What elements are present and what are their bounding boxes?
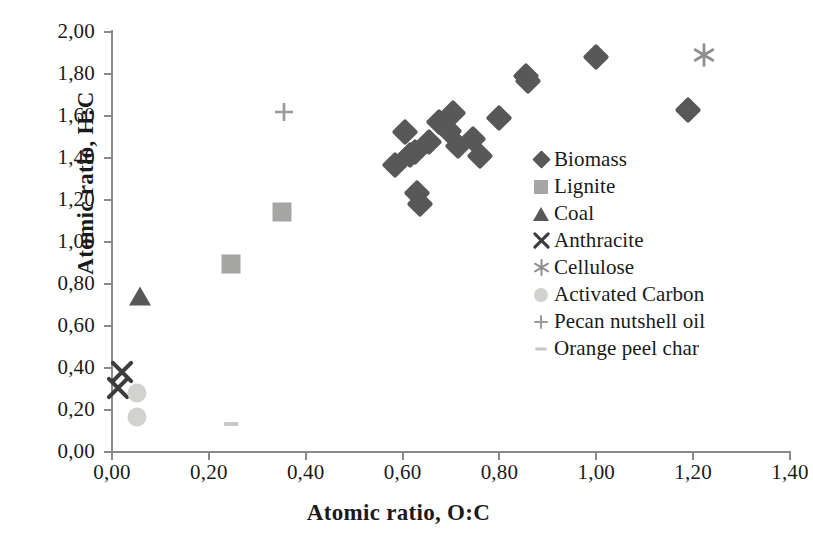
- x-axis-tick: [305, 452, 307, 460]
- y-axis-tick: [104, 199, 112, 201]
- asterisk-legend-icon: [528, 255, 554, 281]
- y-axis-tick: [104, 409, 112, 411]
- y-axis-tick: [104, 115, 112, 117]
- legend-item-label: Orange peel char: [554, 338, 699, 359]
- chart-legend: BiomassLigniteCoalAnthraciteCelluloseAct…: [528, 146, 778, 362]
- diamond-marker-icon: [583, 44, 610, 71]
- y-axis-tick: [104, 157, 112, 159]
- legend-item-orange-peel-char[interactable]: Orange peel char: [528, 335, 778, 362]
- data-point-orange-peel-char: [222, 420, 240, 428]
- x-axis-tick: [595, 452, 597, 460]
- dash-legend-icon: [528, 336, 554, 362]
- x-axis-tick-label: 0,80: [464, 462, 534, 483]
- x-axis-tick-label: 1,00: [561, 462, 631, 483]
- data-point-biomass: [688, 110, 707, 129]
- y-axis-tick: [104, 283, 112, 285]
- legend-item-biomass[interactable]: Biomass: [528, 146, 778, 173]
- legend-item-label: Anthracite: [554, 230, 644, 251]
- y-axis-tick: [104, 325, 112, 327]
- x-axis-title: Atomic ratio, O:C: [0, 500, 797, 526]
- legend-item-coal[interactable]: Coal: [528, 200, 778, 227]
- legend-item-activated-carbon[interactable]: Activated Carbon: [528, 281, 778, 308]
- y-axis-tick: [104, 241, 112, 243]
- square-marker-icon: [221, 255, 240, 274]
- y-axis-tick-label: 0,20: [33, 399, 95, 420]
- legend-item-label: Cellulose: [554, 257, 634, 278]
- y-axis-tick: [104, 31, 112, 33]
- circle-marker-icon: [128, 384, 147, 403]
- legend-item-anthracite[interactable]: Anthracite: [528, 227, 778, 254]
- legend-item-pecan-nutshell-oil[interactable]: Pecan nutshell oil: [528, 308, 778, 335]
- circle-legend-icon: [528, 282, 554, 308]
- plus-legend-icon: [528, 309, 554, 335]
- legend-item-cellulose[interactable]: Cellulose: [528, 254, 778, 281]
- legend-item-label: Pecan nutshell oil: [554, 311, 705, 332]
- x-axis-tick-label: 1,20: [658, 462, 728, 483]
- x-axis-tick-label: 0,00: [77, 462, 147, 483]
- triangle-legend-icon: [528, 201, 554, 227]
- x-axis-tick: [789, 452, 791, 460]
- triangle-marker-icon: [129, 286, 151, 305]
- legend-item-label: Lignite: [554, 176, 615, 197]
- legend-item-label: Activated Carbon: [554, 284, 704, 305]
- x-axis-tick: [402, 452, 404, 460]
- data-point-cellulose: [691, 42, 717, 68]
- x-legend-icon: [528, 228, 554, 254]
- x-axis-tick: [208, 452, 210, 460]
- y-axis-tick-label: 0,00: [33, 441, 95, 462]
- x-axis-tick-label: 1,40: [755, 462, 813, 483]
- x-axis-tick: [692, 452, 694, 460]
- square-legend-icon: [528, 174, 554, 200]
- data-point-activated-carbon: [137, 417, 156, 436]
- legend-item-label: Biomass: [554, 149, 627, 170]
- y-axis-title: Atomic ratio, H:C: [73, 83, 99, 283]
- square-marker-icon: [272, 202, 291, 221]
- data-point-lignite: [231, 264, 250, 283]
- y-axis-tick-label: 2,00: [33, 21, 95, 42]
- y-axis-tick: [104, 73, 112, 75]
- data-point-biomass: [420, 204, 439, 223]
- data-point-lignite: [282, 212, 301, 231]
- data-point-pecan-nutshell-oil: [272, 100, 296, 124]
- x-axis-tick: [498, 452, 500, 460]
- y-axis-tick-label: 0,40: [33, 357, 95, 378]
- circle-marker-icon: [128, 408, 147, 427]
- x-axis-tick-label: 0,20: [174, 462, 244, 483]
- y-axis-tick-label: 0,60: [33, 315, 95, 336]
- data-point-biomass: [528, 81, 547, 100]
- x-axis-tick-label: 0,60: [368, 462, 438, 483]
- data-point-anthracite: [105, 375, 131, 401]
- data-point-biomass: [480, 156, 499, 175]
- data-point-biomass: [596, 57, 615, 76]
- data-point-biomass: [499, 118, 518, 137]
- x-axis-tick: [111, 452, 113, 460]
- diamond-marker-icon: [675, 96, 702, 123]
- diamond-marker-icon: [486, 105, 513, 132]
- diamond-legend-icon: [528, 147, 554, 173]
- legend-item-label: Coal: [554, 203, 594, 224]
- x-axis-tick-label: 0,40: [271, 462, 341, 483]
- data-point-coal: [140, 296, 162, 315]
- legend-item-lignite[interactable]: Lignite: [528, 173, 778, 200]
- y-axis-tick-label: 1,80: [33, 63, 95, 84]
